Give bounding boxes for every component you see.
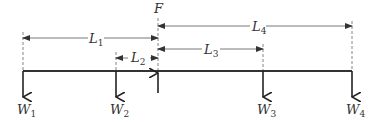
load-label-w1: W1 [17,102,36,119]
load-label-w4: W4 [346,102,365,119]
dimension-lines [23,26,352,58]
load-arrows [23,71,352,97]
load-label-w3: W3 [257,102,276,119]
dim-label-l4: L4 [251,19,267,36]
dim-label-l1: L1 [88,31,103,48]
load-label-w2: W2 [110,102,129,119]
dim-label-l2: L2 [130,50,145,67]
beam-diagram: F L1 L2 L3 L4 W1 W2 W3 W4 [0,0,378,126]
force-label: F [153,1,164,16]
dim-label-l3: L3 [203,42,219,59]
